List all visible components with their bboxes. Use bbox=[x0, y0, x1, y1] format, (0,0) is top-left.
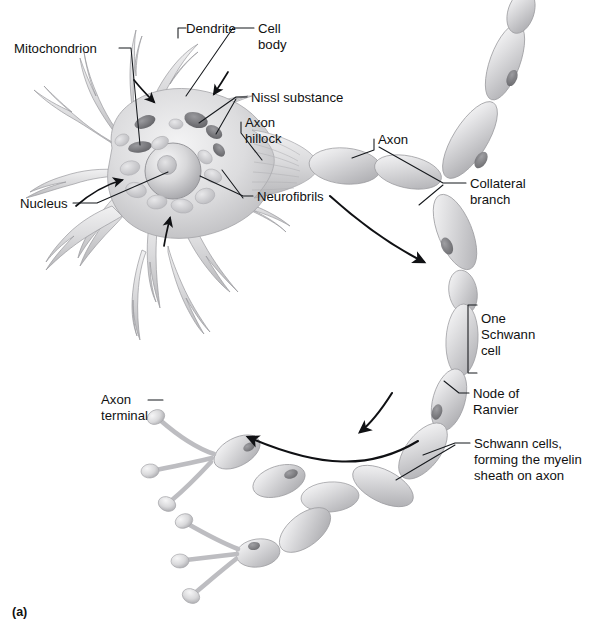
axon-terminal-cluster-lower bbox=[171, 511, 238, 606]
myelin-segment-group-right bbox=[389, 189, 485, 488]
label-axon: Axon bbox=[378, 132, 408, 147]
myelin-segment bbox=[249, 458, 310, 503]
label-collateral-line2: branch bbox=[470, 192, 510, 207]
impulse-arrow-to-terminals bbox=[248, 437, 418, 462]
myelin-segment bbox=[477, 19, 533, 104]
terminal-bouton bbox=[140, 463, 159, 479]
nucleolus-shape bbox=[158, 156, 177, 175]
terminal-branch-stalks bbox=[186, 524, 238, 592]
label-node-line2: Ranvier bbox=[473, 402, 519, 417]
label-one-schwann-line2: Schwann bbox=[481, 327, 535, 342]
label-collateral-line1: Collateral bbox=[470, 176, 526, 191]
neuron-diagram-figure: Mitochondrion Dendrite Cell body Nissl s… bbox=[0, 0, 612, 632]
dendrite-arrow-right bbox=[214, 72, 228, 94]
label-dendrite: Dendrite bbox=[186, 21, 236, 36]
label-axon-terminal-line2: terminal bbox=[101, 408, 148, 423]
cell-body-soma bbox=[108, 88, 277, 238]
label-cell-body-line2: body bbox=[258, 37, 287, 52]
myelin-segment bbox=[300, 480, 360, 514]
impulse-arrow-lower-right bbox=[360, 393, 392, 432]
neuron-illustration: Mitochondrion Dendrite Cell body Nissl s… bbox=[0, 0, 612, 632]
label-schwann-line3: sheath on axon bbox=[474, 468, 564, 483]
label-axon-terminal-line1: Axon bbox=[101, 392, 131, 407]
panel-label: (a) bbox=[12, 605, 27, 619]
label-one-schwann-line3: cell bbox=[481, 343, 501, 358]
label-one-schwann-line1: One bbox=[481, 311, 506, 326]
myelin-segment-branch bbox=[234, 536, 281, 570]
label-axon-hillock-line1: Axon bbox=[245, 115, 275, 130]
label-schwann-line2: forming the myelin bbox=[474, 452, 582, 467]
myelin-segment bbox=[371, 149, 444, 194]
label-nissl-substance: Nissl substance bbox=[251, 90, 343, 105]
terminal-bouton bbox=[171, 554, 189, 569]
label-node-line1: Node of bbox=[473, 386, 520, 401]
label-cell-body-line1: Cell bbox=[258, 21, 281, 36]
label-axon-hillock-line2: hillock bbox=[245, 131, 282, 146]
leader-dendrite bbox=[178, 28, 186, 38]
myelin-segment bbox=[432, 94, 507, 187]
impulse-arrow-descending bbox=[330, 196, 424, 262]
label-neurofibrils: Neurofibrils bbox=[257, 189, 324, 204]
myelin-segment bbox=[208, 428, 265, 476]
label-nucleus: Nucleus bbox=[20, 196, 68, 211]
axon-terminal-cluster-upper bbox=[140, 407, 214, 514]
myelin-segment-one-schwann bbox=[444, 303, 480, 377]
terminal-branch-stalks bbox=[156, 420, 214, 500]
label-schwann-line1: Schwann cells, bbox=[474, 436, 562, 451]
label-mitochondrion: Mitochondrion bbox=[14, 41, 97, 56]
